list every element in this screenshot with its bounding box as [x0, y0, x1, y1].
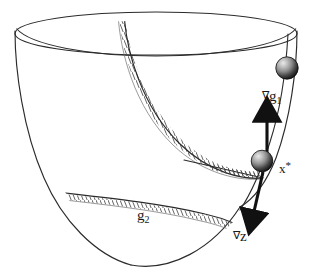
- label-constraint-g2: g2: [137, 207, 150, 225]
- label-g1-base: g: [269, 88, 277, 104]
- figure-canvas: ∇g1 ∇z g2 x*: [0, 0, 314, 273]
- label-z-base: z: [240, 228, 247, 244]
- label-gradient-z: ∇z: [233, 228, 247, 244]
- bowl-surface: [15, 31, 297, 266]
- label-g1-subscript: 1: [277, 95, 282, 106]
- bowl-rim: [15, 12, 297, 56]
- nabla-symbol-g1: ∇: [262, 89, 269, 101]
- label-x-star-superscript: *: [286, 159, 292, 171]
- nabla-symbol-z: ∇: [233, 229, 240, 241]
- ball-marker-at-optimum: [251, 150, 273, 172]
- label-optimum-x-star: x*: [279, 160, 291, 176]
- label-gradient-g1: ∇g1: [262, 88, 282, 106]
- ball-marker-upper: [276, 57, 298, 79]
- optimization-diagram-svg: [0, 0, 314, 273]
- label-g2-subscript: 2: [145, 214, 150, 225]
- label-g2-base: g: [137, 207, 145, 223]
- constraint-curve-g1: [118, 13, 264, 179]
